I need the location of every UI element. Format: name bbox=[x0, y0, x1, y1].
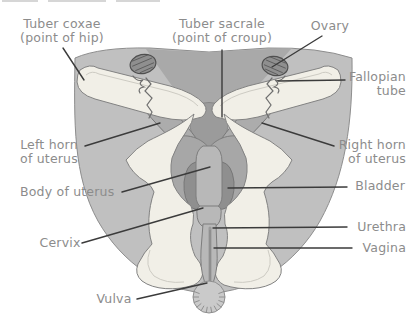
label-line: Tuber coxae bbox=[12, 17, 112, 31]
label-line: (point of croup) bbox=[160, 31, 284, 45]
label-cervix: Cervix bbox=[36, 236, 84, 250]
label-vulva: Vulva bbox=[92, 292, 136, 306]
label-line: Cervix bbox=[36, 236, 84, 250]
leader-urethra bbox=[213, 227, 347, 228]
label-line: Left horn bbox=[12, 138, 86, 152]
label-tuber-coxae: Tuber coxae (point of hip) bbox=[12, 17, 112, 45]
leader-fallopian-tube bbox=[278, 80, 345, 81]
label-line: Bladder bbox=[343, 179, 405, 193]
label-line: Ovary bbox=[303, 19, 357, 33]
label-vagina: Vagina bbox=[344, 241, 406, 255]
label-tuber-sacrale: Tuber sacrale (point of croup) bbox=[160, 17, 284, 45]
label-bladder: Bladder bbox=[343, 179, 405, 193]
scan-artifact bbox=[2, 0, 160, 2]
label-line: Vagina bbox=[344, 241, 406, 255]
label-urethra: Urethra bbox=[342, 220, 406, 234]
label-line: Right horn bbox=[328, 138, 406, 152]
label-line: Body of uterus bbox=[20, 185, 122, 199]
mare-reproductive-diagram: Tuber coxae (point of hip) Tuber sacrale… bbox=[0, 0, 418, 328]
label-left-horn: Left horn of uterus bbox=[12, 138, 86, 166]
label-line: Tuber sacrale bbox=[160, 17, 284, 31]
body-of-uterus-shape bbox=[196, 146, 222, 208]
label-ovary: Ovary bbox=[303, 19, 357, 33]
label-line: (point of hip) bbox=[12, 31, 112, 45]
label-line: Vulva bbox=[92, 292, 136, 306]
label-line: of uterus bbox=[12, 152, 86, 166]
label-line: Urethra bbox=[342, 220, 406, 234]
label-body-of-uterus: Body of uterus bbox=[20, 185, 122, 199]
label-line: Fallopian bbox=[338, 70, 406, 84]
label-fallopian-tube: Fallopian tube bbox=[338, 70, 406, 98]
label-right-horn: Right horn of uterus bbox=[328, 138, 406, 166]
label-line: tube bbox=[338, 84, 406, 98]
leader-bladder bbox=[228, 187, 347, 188]
label-line: of uterus bbox=[328, 152, 406, 166]
